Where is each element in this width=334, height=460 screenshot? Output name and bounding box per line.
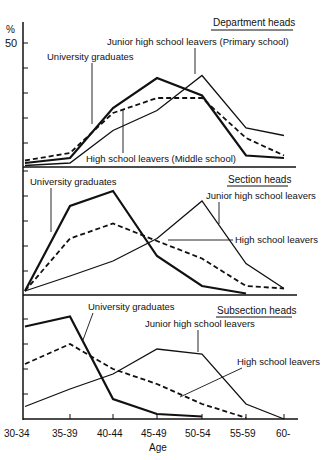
series-line-high-school-leavers-middle-school <box>25 98 284 161</box>
x-axis-label: Age <box>149 442 167 453</box>
series-annotation-label: University graduates <box>30 176 117 187</box>
y-axis-unit: % <box>6 24 15 35</box>
series-annotation-label: University graduates <box>88 301 175 312</box>
x-tick-label: 35-39 <box>52 428 78 439</box>
x-tick-label: 60- <box>276 428 290 439</box>
annotation-pointer <box>180 368 242 397</box>
series-line-university-graduates <box>25 191 246 294</box>
x-tick-label: 40-44 <box>97 428 123 439</box>
panel-title-department-heads: Department heads <box>213 17 295 28</box>
series-annotation-label: High school leavers <box>235 234 318 245</box>
series-lines <box>25 76 284 420</box>
x-tick-label: 50-54 <box>185 428 211 439</box>
series-line-university-graduates <box>25 317 202 417</box>
x-tick-label: 45-49 <box>141 428 167 439</box>
series-annotation-label: Junior high school leavers (Primary scho… <box>107 36 289 47</box>
career-chart: % 50 30-3435-3940-4445-4950-5455-5960- A… <box>0 0 334 460</box>
annotation-pointer <box>83 313 93 340</box>
x-tick-label: 30-34 <box>4 428 30 439</box>
series-line-university-graduates <box>25 78 284 163</box>
x-tick-label: 55-59 <box>230 428 256 439</box>
series-annotation-label: Junior high school leavers <box>145 318 255 329</box>
panel-title-section-heads: Section heads <box>228 174 291 185</box>
panel-title-subsection-heads: Subsection heads <box>217 305 297 316</box>
y-tick-label-50: 50 <box>5 37 17 49</box>
series-line-junior-high-school-leavers-primary-school <box>25 76 284 166</box>
series-annotation-label: Junior high school leavers <box>206 190 316 201</box>
series-annotations: University graduatesJunior high school l… <box>30 36 320 397</box>
series-annotation-label: High school leavers (Middle school) <box>86 153 236 164</box>
x-tick-labels: 30-3435-3940-4445-4950-5455-5960- <box>4 428 290 439</box>
series-annotation-label: University graduates <box>47 51 134 62</box>
series-annotation-label: High school leavers <box>237 356 320 367</box>
